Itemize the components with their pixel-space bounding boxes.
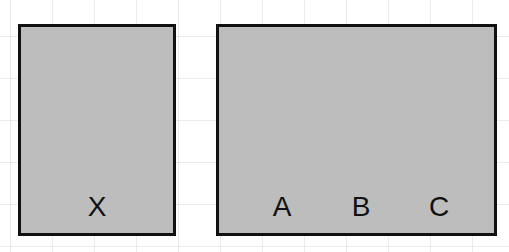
label-c: C: [429, 193, 449, 221]
right-box: A B C: [216, 24, 497, 236]
label-b: B: [352, 193, 371, 221]
label-a: A: [273, 193, 292, 221]
label-x: X: [88, 193, 107, 221]
left-box: X: [18, 24, 176, 236]
